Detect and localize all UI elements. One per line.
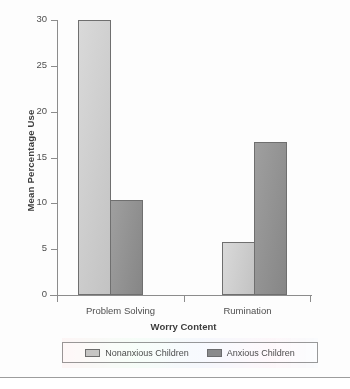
legend-entry-anxious: Anxious Children [207,348,295,358]
bar-anxious-rumination [254,142,287,295]
category-label-problem-solving: Problem Solving [57,305,184,316]
category-label-rumination: Rumination [184,305,311,316]
y-axis-tick-label: 30 [0,13,47,24]
bar-nonanxious-problem-solving [78,20,111,295]
bar-anxious-problem-solving [110,200,143,295]
y-axis-tick-label: 0 [0,288,47,299]
x-axis-title: Worry Content [57,321,310,332]
plot-area [57,20,310,295]
legend-swatch-icon-nonanxious [85,349,100,357]
page-bottom-margin [0,378,350,389]
x-axis-tick-left [57,296,58,302]
chart-legend: Nonanxious Children Anxious Children [62,342,318,363]
bar-chart-figure: Mean Percentage Use 051015202530 Problem… [0,0,350,389]
x-axis-tick-right [310,296,311,302]
legend-entry-nonanxious: Nonanxious Children [85,348,189,358]
y-axis-tick-label: 15 [0,151,47,162]
y-axis-tick-label: 10 [0,196,47,207]
y-axis-tick-label: 20 [0,105,47,116]
legend-swatch-icon-anxious [207,349,222,357]
x-axis-line [50,295,312,296]
y-axis-tick-label: 5 [0,242,47,253]
x-axis-tick-middle [184,296,185,302]
legend-label-nonanxious: Nonanxious Children [105,348,189,358]
y-axis-tick-label: 25 [0,59,47,70]
legend-label-anxious: Anxious Children [227,348,295,358]
bar-nonanxious-rumination [222,242,255,295]
